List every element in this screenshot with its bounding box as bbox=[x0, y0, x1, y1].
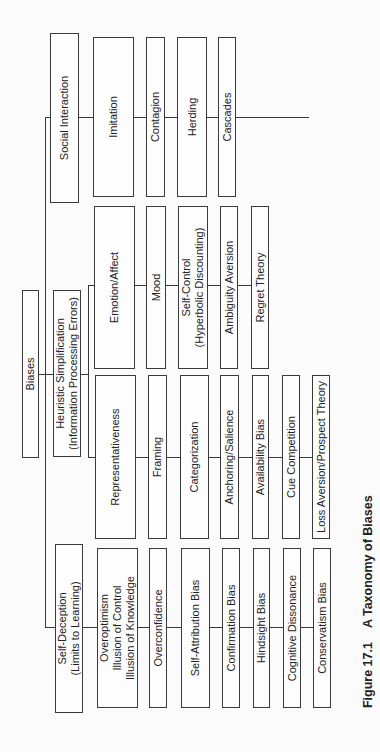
item-framing: Framing bbox=[148, 375, 167, 539]
item-herding: Herding bbox=[177, 37, 207, 197]
item-self-control: Self-Control (Hyperbolic Discounting) bbox=[178, 206, 208, 369]
item-availability-bias: Availability Bias bbox=[252, 375, 269, 539]
item-cue-competition: Cue Competition bbox=[282, 375, 300, 539]
item-regret-theory: Regret Theory bbox=[251, 206, 269, 369]
category-heuristic-simplification: Heuristic Simplification (Information Pr… bbox=[53, 290, 81, 457]
figure-number: Figure 17.1 bbox=[361, 642, 375, 708]
item-overoptimism: Overoptimism Illusion of Control Illusio… bbox=[97, 548, 138, 708]
item-self-attribution-bias: Self-Attribution Bias bbox=[181, 548, 210, 708]
heuristic-stub bbox=[81, 374, 88, 375]
item-overconfidence: Overconfidence bbox=[149, 548, 167, 708]
root-connector bbox=[38, 374, 45, 375]
trunk-line bbox=[45, 118, 46, 628]
item-ambiguity-aversion: Ambiguity Aversion bbox=[220, 206, 238, 369]
item-cognitive-dissonance: Cognitive Dissonance bbox=[283, 548, 301, 708]
item-loss-aversion: Loss Aversion/Prospect Theory bbox=[312, 375, 330, 539]
figure-title: A Taxonomy of Biases bbox=[361, 495, 375, 628]
item-categorization: Categorization bbox=[180, 375, 209, 539]
root-biases: Biases bbox=[22, 290, 39, 458]
heuristic-bracket bbox=[88, 285, 89, 458]
item-emotion-affect: Emotion/Affect bbox=[94, 206, 135, 369]
item-contagion: Contagion bbox=[146, 37, 165, 197]
root-label: Biases bbox=[24, 357, 37, 390]
category-self-deception: Self-Deception (Limits to Learning) bbox=[55, 544, 83, 713]
item-representativeness: Representativeness bbox=[95, 375, 136, 539]
heuristic-connector bbox=[45, 374, 53, 375]
figure-caption: Figure 17.1A Taxonomy of Biases bbox=[347, 495, 380, 722]
item-mood: Mood bbox=[146, 206, 166, 369]
item-hindsight-bias: Hindsight Bias bbox=[253, 548, 270, 708]
self-deception-connector bbox=[45, 627, 55, 628]
item-confirmation-bias: Confirmation Bias bbox=[222, 548, 240, 708]
item-anchoring-salience: Anchoring/Salience bbox=[220, 375, 239, 539]
item-cascades: Cascades bbox=[218, 37, 236, 197]
item-conservatism-bias: Conservatism Bias bbox=[313, 548, 331, 708]
category-social-interaction: Social Interaction bbox=[50, 33, 79, 203]
item-imitation: Imitation bbox=[93, 37, 134, 197]
